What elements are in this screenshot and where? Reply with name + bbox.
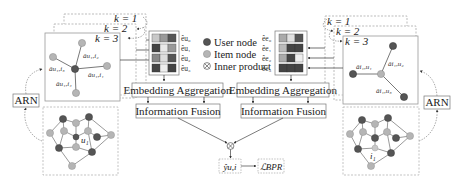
prediction-box: ŷu,i	[219, 159, 241, 173]
framework-diagram: k = 1 k = 2 k = 3 âu₁,i₂ âu₁,i₃ âu₁,i₁ â…	[0, 0, 461, 193]
loss-box: ℒBPR	[258, 159, 284, 173]
edge-label: âu₁,i₁	[88, 71, 104, 79]
embedding-label: êu₃	[181, 64, 191, 73]
user-node	[400, 93, 407, 100]
edge-label: âu₁,i₂	[83, 52, 99, 60]
right-arn-label: ARN	[425, 96, 448, 108]
right-embedding-aggregation-box: Embedding Aggregation	[229, 83, 337, 97]
left-fusion-label: Information Fusion	[135, 105, 221, 117]
user-node	[389, 42, 396, 49]
edge-label: âu₁,i₄	[56, 80, 72, 88]
embedding-label: êe₂	[262, 54, 272, 63]
loss-label: ℒBPR	[260, 162, 283, 172]
right-fusion-label: Information Fusion	[241, 105, 327, 117]
left-graph-node-label: u₁	[81, 135, 89, 145]
embedding-label: êe₃	[262, 64, 272, 73]
prediction-label: ŷu,i	[222, 162, 237, 172]
right-k3-label: k = 3	[345, 35, 369, 47]
right-full-graph: i₁	[343, 107, 419, 175]
left-embedding-aggregation-box: Embedding Aggregation	[124, 83, 232, 97]
item-node	[377, 70, 384, 77]
left-k3-label: k = 3	[95, 32, 119, 44]
edge-label: âi₁,u₂	[388, 60, 404, 68]
item-node	[49, 53, 56, 60]
right-aggregation-label: Embedding Aggregation	[229, 84, 337, 96]
legend-item-node: Item node	[214, 49, 257, 60]
left-aggregation-label: Embedding Aggregation	[124, 84, 232, 96]
edge-label: âi₁,u₁	[356, 63, 372, 71]
left-full-graph: u₁	[43, 107, 118, 175]
item-node	[103, 62, 110, 69]
legend: User node Item node Inner product	[203, 37, 271, 72]
right-arn-box: ARN	[424, 96, 450, 109]
inner-product-operator	[227, 143, 234, 150]
user-node	[349, 70, 356, 77]
left-information-fusion-box: Information Fusion	[135, 104, 221, 118]
right-information-fusion-box: Information Fusion	[241, 104, 327, 118]
user-node	[71, 65, 78, 72]
user-node-icon	[203, 38, 210, 45]
embedding-label: êu₂	[181, 54, 191, 63]
embedding-label: êe₀	[262, 34, 272, 43]
left-embedding-matrix	[149, 31, 179, 75]
left-arn-box: ARN	[13, 94, 39, 107]
item-node	[78, 39, 85, 46]
inner-product-icon	[204, 63, 211, 70]
right-graph-node-label: i₁	[370, 151, 376, 161]
left-arn-label: ARN	[14, 94, 37, 106]
item-node	[72, 89, 79, 96]
legend-user-node: User node	[214, 37, 257, 48]
item-node-icon	[203, 50, 210, 57]
edge-label: âi₁,u₃	[376, 87, 392, 95]
embedding-label: êu₀	[181, 34, 191, 43]
embedding-label: êe₁	[262, 44, 272, 53]
right-embedding-matrix	[275, 31, 307, 75]
embedding-label: êu₁	[181, 44, 191, 53]
edge-label: âu₁,i₃	[49, 65, 65, 73]
